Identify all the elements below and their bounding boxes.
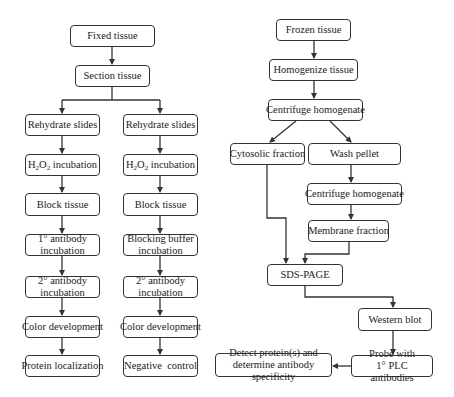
step-sds-page: SDS-PAGE	[267, 264, 343, 286]
step-label: 2° antibody incubation	[136, 275, 185, 299]
step-b-color-development: Color development	[123, 316, 198, 338]
step-b-blocking-buffer: Blocking buffer incubation	[123, 234, 198, 256]
step-label: H2O2 incubation	[126, 159, 195, 171]
step-label: Probe with 1° PLC antibodies	[354, 348, 430, 384]
step-label: Rehydrate slides	[126, 119, 196, 131]
step-b-rehydrate-slides: Rehydrate slides	[123, 114, 198, 136]
step-label: Wash pellet	[330, 148, 379, 160]
step-probe-antibodies: Probe with 1° PLC antibodies	[351, 355, 433, 377]
step-section-tissue: Section tissue	[75, 65, 150, 87]
step-label: Fixed tissue	[87, 30, 137, 42]
step-label: H2O2 incubation	[28, 159, 97, 171]
step-frozen-tissue: Frozen tissue	[276, 19, 351, 41]
step-detect-protein: Detect protein(s) and determine antibody…	[215, 353, 332, 377]
step-label: Color development	[120, 321, 201, 333]
step-label: Color development	[22, 321, 103, 333]
step-label: Rehydrate slides	[28, 119, 98, 131]
step-a-secondary-antibody: 2° antibody incubation	[25, 276, 100, 298]
step-label: Frozen tissue	[286, 24, 342, 36]
step-western-blot: Western blot	[358, 308, 432, 331]
step-centrifuge-homogenate-2: Centrifuge homogenate	[307, 183, 402, 205]
step-b-block-tissue: Block tissue	[123, 193, 198, 216]
step-homogenize-tissue: Homogenize tissue	[269, 59, 358, 81]
step-fixed-tissue: Fixed tissue	[70, 25, 155, 47]
step-a-color-development: Color development	[25, 316, 100, 338]
step-label: 2° antibody incubation	[38, 275, 87, 299]
step-label: Block tissue	[135, 199, 187, 211]
step-a-rehydrate-slides: Rehydrate slides	[25, 114, 100, 136]
step-wash-pellet: Wash pellet	[308, 143, 401, 165]
step-membrane-fraction: Membrane fraction	[308, 220, 389, 242]
step-label: SDS-PAGE	[280, 269, 329, 281]
step-a-primary-antibody: 1° antibody incubation	[25, 234, 100, 256]
step-b-secondary-antibody: 2° antibody incubation	[123, 276, 198, 298]
step-cytosolic-fraction: Cytosolic fraction	[230, 143, 305, 165]
step-label: Protein localization	[22, 360, 104, 372]
step-label: Block tissue	[37, 199, 89, 211]
step-b-h2o2-incubation: H2O2 incubation	[123, 154, 198, 176]
step-label: Negative control	[124, 360, 197, 372]
step-centrifuge-homogenate-1: Centrifuge homogenate	[268, 99, 363, 121]
step-label: Western blot	[368, 314, 421, 326]
step-a-block-tissue: Block tissue	[25, 193, 100, 216]
step-label: Blocking buffer incubation	[127, 233, 194, 257]
step-label: Centrifuge homogenate	[266, 104, 365, 116]
step-b-negative-control: Negative control	[123, 355, 198, 377]
step-label: Homogenize tissue	[273, 64, 353, 76]
step-label: Section tissue	[83, 70, 141, 82]
step-a-protein-localization: Protein localization	[25, 355, 100, 377]
step-label: Membrane fraction	[308, 225, 389, 237]
step-label: Detect protein(s) and determine antibody…	[218, 347, 329, 383]
step-label: 1° antibody incubation	[38, 233, 87, 257]
step-label: Centrifuge homogenate	[305, 188, 404, 200]
step-label: Cytosolic fraction	[230, 148, 306, 160]
step-a-h2o2-incubation: H2O2 incubation	[25, 154, 100, 176]
